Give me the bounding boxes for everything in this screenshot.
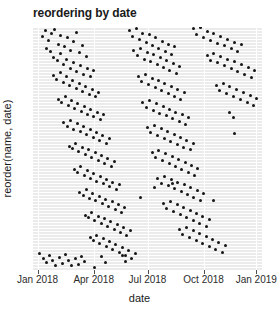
x-tick-label: Oct 2018	[183, 274, 224, 285]
data-point	[162, 202, 165, 205]
data-point	[79, 165, 82, 168]
data-point	[185, 139, 188, 142]
data-point	[199, 27, 202, 29]
data-point	[134, 252, 137, 255]
data-point	[89, 128, 92, 131]
data-point	[219, 55, 222, 58]
data-point	[114, 208, 117, 211]
data-point	[56, 59, 59, 62]
data-point	[65, 58, 68, 61]
data-point	[45, 261, 48, 264]
data-point	[82, 125, 85, 128]
data-point	[190, 164, 193, 167]
data-point	[83, 260, 86, 263]
data-point	[157, 79, 160, 82]
data-point	[106, 157, 109, 160]
data-point	[161, 159, 164, 162]
data-point	[230, 67, 233, 70]
data-point	[128, 29, 131, 32]
data-point	[168, 108, 171, 111]
data-point	[72, 40, 75, 43]
x-tick-label: Jan 2018	[17, 274, 58, 285]
data-point	[178, 120, 181, 123]
data-point	[118, 183, 121, 186]
data-point	[233, 60, 236, 63]
data-point	[195, 33, 198, 36]
data-point	[52, 74, 55, 77]
data-point	[154, 36, 157, 39]
gridline-vertical	[148, 27, 149, 270]
data-point	[176, 143, 179, 146]
data-point	[62, 81, 65, 84]
plot-panel	[33, 27, 262, 270]
data-point	[102, 237, 105, 240]
data-point	[51, 259, 54, 262]
data-point	[81, 44, 84, 47]
data-point	[80, 110, 83, 113]
data-point	[75, 31, 78, 34]
data-point	[77, 150, 80, 153]
data-point	[77, 263, 80, 266]
data-point	[235, 88, 238, 91]
data-point	[135, 27, 138, 30]
data-point	[97, 159, 100, 162]
data-point	[123, 206, 126, 209]
data-point	[78, 51, 81, 54]
data-point	[90, 211, 93, 214]
data-point	[50, 32, 53, 35]
data-point	[196, 189, 199, 192]
data-point	[187, 171, 190, 174]
data-point	[47, 39, 50, 42]
data-point	[58, 256, 61, 259]
data-point	[187, 116, 190, 119]
data-point	[156, 63, 159, 66]
data-point	[173, 187, 176, 190]
data-point	[113, 160, 116, 163]
data-point	[239, 98, 242, 101]
gridline-vertical	[256, 27, 257, 270]
data-point	[89, 108, 92, 111]
data-point	[148, 33, 151, 36]
data-point	[156, 177, 159, 180]
data-point	[236, 70, 239, 73]
data-point	[181, 233, 184, 236]
data-point	[141, 101, 144, 104]
data-point	[67, 259, 70, 262]
data-point	[186, 193, 189, 196]
data-point	[226, 58, 229, 61]
data-point	[176, 203, 179, 206]
data-point	[223, 64, 226, 67]
data-point	[80, 255, 83, 258]
data-point	[102, 113, 105, 116]
data-point	[72, 61, 75, 64]
x-tick-label: Jan 2019	[236, 274, 277, 285]
data-point	[206, 30, 209, 33]
data-point	[226, 38, 229, 41]
data-point	[250, 76, 253, 79]
data-point	[146, 126, 149, 129]
data-point	[146, 51, 149, 54]
data-point	[143, 58, 146, 61]
data-point	[145, 41, 148, 44]
data-point	[139, 47, 142, 50]
data-point	[225, 92, 228, 95]
data-point	[45, 47, 48, 50]
data-point	[119, 231, 122, 234]
data-point	[176, 88, 179, 91]
data-point	[180, 168, 183, 171]
data-point	[95, 180, 98, 183]
data-point	[69, 67, 72, 70]
data-point	[152, 109, 155, 112]
gridline-vertical	[38, 27, 39, 270]
data-point	[192, 219, 195, 222]
data-point	[249, 94, 252, 97]
data-point	[88, 93, 91, 96]
data-point	[86, 113, 89, 116]
data-point	[222, 82, 225, 85]
data-point	[212, 52, 215, 55]
data-point	[178, 65, 181, 68]
data-point	[144, 73, 147, 76]
data-point	[173, 45, 176, 48]
data-point	[83, 105, 86, 108]
data-point	[165, 114, 168, 117]
